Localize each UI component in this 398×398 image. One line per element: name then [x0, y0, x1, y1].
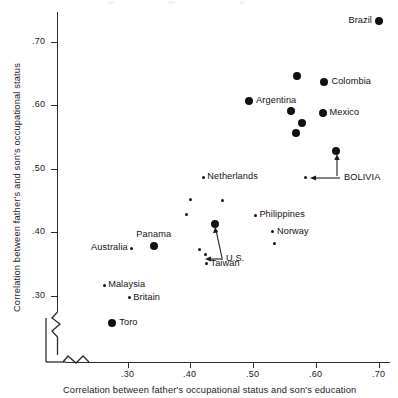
point-label-mexico: Mexico	[330, 107, 360, 117]
y-tick-50	[51, 169, 57, 170]
data-point-britain	[128, 296, 131, 299]
y-tick-30	[51, 296, 57, 297]
x-tick-60	[316, 362, 317, 368]
data-point-bolivia	[332, 147, 340, 155]
point-label-argentina: Argentina	[256, 95, 296, 105]
x-axis-title: Correlation between father's occupationa…	[63, 385, 356, 395]
data-point-norway	[271, 230, 274, 233]
data-point-unlabeled	[189, 198, 192, 201]
data-point-mexico	[319, 109, 327, 117]
data-point-argentina	[245, 97, 253, 105]
data-point-unlabeled	[298, 119, 306, 127]
y-axis-title: Correlation between father's and son's o…	[12, 63, 22, 312]
data-point-unlabeled	[292, 129, 300, 137]
point-label-panama: Panama	[136, 229, 171, 239]
y-tick-label-30: .30	[32, 290, 45, 300]
point-label-britain: Britain	[133, 292, 160, 302]
axis-break-and-leaders	[0, 0, 398, 398]
data-point-australia	[130, 247, 133, 250]
point-label-netherlands: Netherlands	[207, 171, 258, 181]
point-label-malaysia: Malaysia	[108, 279, 145, 289]
point-label-bolivia: BOLIVIA	[344, 172, 380, 182]
top-crop-artifact	[240, 1, 245, 4]
data-point-unlabeled	[185, 213, 188, 216]
y-tick-40	[51, 232, 57, 233]
data-point-unlabeled	[293, 72, 301, 80]
point-label-philippines: Philippines	[259, 209, 305, 219]
data-point-unlabeled	[273, 242, 276, 245]
point-label-norway: Norway	[277, 226, 309, 236]
data-point-taiwan	[205, 262, 208, 265]
data-point-unlabeled	[198, 248, 201, 251]
y-tick-70	[51, 42, 57, 43]
y-tick-label-70: .70	[32, 36, 45, 46]
point-label-australia: Australia	[91, 242, 128, 252]
y-tick-label-40: .40	[32, 226, 45, 236]
data-point-toro	[108, 319, 116, 327]
data-point-philippines	[254, 214, 257, 217]
point-label-brazil: Brazil	[348, 15, 372, 25]
y-tick-60	[51, 105, 57, 106]
x-tick-label-70: .70	[372, 369, 385, 379]
x-tick-30	[128, 362, 129, 368]
y-axis-line	[57, 12, 58, 312]
point-label-toro: Toro	[119, 317, 137, 327]
data-point-unlabeled	[221, 199, 224, 202]
data-point-us	[204, 253, 207, 256]
data-point-malaysia	[103, 284, 106, 287]
y-tick-label-50: .50	[32, 163, 45, 173]
data-point-panama	[150, 242, 158, 250]
data-point-unlabeled	[304, 176, 307, 179]
top-crop-artifact	[168, 1, 175, 4]
x-tick-label-50: .50	[246, 369, 259, 379]
data-point-colombia	[320, 78, 328, 86]
x-tick-70	[379, 362, 380, 368]
x-tick-50	[253, 362, 254, 368]
data-point-unlabeled	[211, 220, 219, 228]
x-axis-line	[66, 362, 390, 363]
y-tick-label-60: .60	[32, 99, 45, 109]
x-tick-40	[190, 362, 191, 368]
point-label-taiwan: Taiwan	[210, 258, 239, 268]
data-point-netherlands	[202, 176, 205, 179]
scatter-plot: .70 .60 .50 .40 .30 .30 .40 .50 .60 .70 …	[0, 0, 398, 398]
x-tick-label-60: .60	[309, 369, 322, 379]
point-label-colombia: Colombia	[331, 76, 371, 86]
data-point-brazil	[375, 17, 383, 25]
top-crop-artifact	[108, 1, 114, 4]
data-point-unlabeled	[287, 107, 295, 115]
x-tick-label-40: .40	[183, 369, 196, 379]
x-tick-label-30: .30	[121, 369, 134, 379]
